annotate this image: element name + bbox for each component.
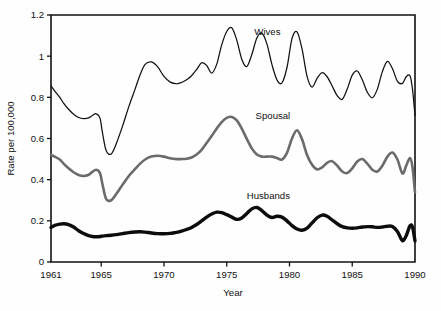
y-axis-title: Rate per 100,000 [5, 101, 16, 175]
x-tick-label: 1970 [153, 269, 174, 280]
y-tick-label: 0.2 [31, 215, 44, 226]
series-label-spousal: Spousal [256, 110, 291, 121]
x-axis-ticks: 1961196519701975198019851990 [40, 262, 425, 280]
y-tick-label: 1.2 [31, 9, 44, 20]
y-axis-ticks: 00.20.40.60.811.2 [31, 9, 51, 267]
series-curves [51, 27, 415, 241]
x-tick-label: 1980 [279, 269, 300, 280]
series-curve-husbands [51, 207, 415, 241]
y-tick-label: 0.4 [31, 174, 45, 185]
y-tick-label: 0.6 [31, 133, 44, 144]
y-tick-label: 0 [39, 256, 44, 267]
chart-figure: 00.20.40.60.811.2 1961196519701975198019… [0, 0, 441, 311]
x-tick-label: 1965 [91, 269, 112, 280]
series-curve-spousal [51, 117, 415, 201]
plot-frame [51, 15, 415, 262]
series-label-wives: Wives [254, 26, 280, 37]
y-tick-label: 0.8 [31, 92, 44, 103]
y-tick-label: 1 [39, 51, 44, 62]
chart-canvas: 00.20.40.60.811.2 1961196519701975198019… [0, 0, 441, 311]
x-tick-label: 1985 [342, 269, 363, 280]
axis-frame [51, 15, 415, 262]
x-tick-label: 1975 [216, 269, 237, 280]
x-tick-label: 1961 [40, 269, 61, 280]
x-axis-title: Year [223, 287, 243, 298]
series-curve-wives [51, 27, 415, 154]
series-label-husbands: Husbands [247, 190, 290, 201]
x-tick-label: 1990 [404, 269, 425, 280]
